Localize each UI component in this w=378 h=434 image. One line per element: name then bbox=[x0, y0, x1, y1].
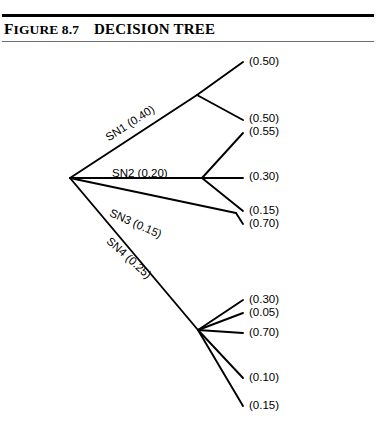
outcome-label: (0.15) bbox=[249, 205, 279, 217]
outcome-label: (0.70) bbox=[249, 218, 279, 230]
outcome-label: (0.55) bbox=[249, 126, 279, 138]
outcome-label: (0.50) bbox=[249, 56, 279, 68]
decision-tree-diagram bbox=[0, 0, 378, 434]
outcome-line-sn3-1 bbox=[236, 213, 243, 224]
branch-line-sn1 bbox=[70, 95, 197, 178]
outcome-label: (0.05) bbox=[249, 307, 279, 319]
outcome-line-sn1-1 bbox=[197, 62, 243, 95]
outcome-label: (0.15) bbox=[249, 400, 279, 412]
outcome-label: (0.50) bbox=[249, 113, 279, 125]
outcome-label: (0.30) bbox=[249, 294, 279, 306]
outcome-label: (0.70) bbox=[249, 327, 279, 339]
outcome-line-sn4-3 bbox=[198, 330, 243, 333]
outcome-line-sn1-2 bbox=[197, 95, 243, 120]
outcome-line-sn4-5 bbox=[198, 330, 243, 406]
outcome-line-sn2-1 bbox=[202, 133, 243, 178]
branch-label-sn2: SN2 (0.20) bbox=[112, 168, 168, 180]
outcome-label: (0.10) bbox=[249, 372, 279, 384]
outcome-line-sn4-4 bbox=[198, 330, 243, 378]
outcome-line-sn2-3 bbox=[202, 178, 243, 211]
tree-svg bbox=[0, 0, 378, 434]
outcome-label: (0.30) bbox=[249, 171, 279, 183]
